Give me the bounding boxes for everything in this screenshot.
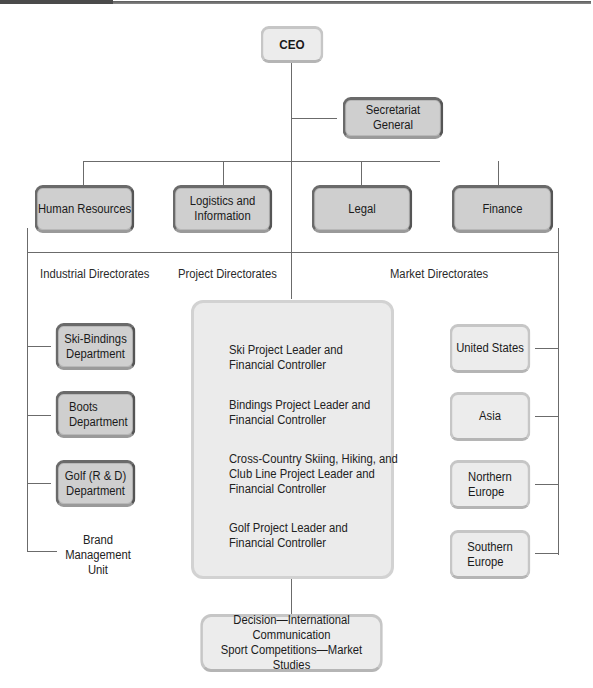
connector bbox=[291, 579, 292, 614]
connector bbox=[27, 228, 28, 552]
united-states-box: United States bbox=[450, 324, 531, 373]
secretariat-box: Secretariat General bbox=[343, 97, 444, 139]
market-directorates-label: Market Directorates bbox=[390, 267, 488, 281]
connector bbox=[27, 483, 51, 484]
connector bbox=[498, 161, 499, 186]
connector bbox=[83, 161, 440, 162]
ski-bindings-box: Ski-BindingsDepartment bbox=[55, 323, 135, 370]
asia-box: Asia bbox=[450, 392, 531, 441]
industrial-directorates-label: Industrial Directorates bbox=[40, 267, 149, 281]
secretariat-label: Secretariat General bbox=[345, 103, 440, 133]
connector bbox=[27, 346, 51, 347]
connector bbox=[27, 415, 51, 416]
connector bbox=[535, 416, 558, 417]
golf-rd-box: Golf (R & D)Department bbox=[55, 460, 135, 507]
top-rule bbox=[113, 1, 591, 4]
connector bbox=[27, 252, 559, 253]
ceo-box: CEO bbox=[261, 26, 324, 63]
bindings-project-item: Bindings Project Leader and Financial Co… bbox=[229, 398, 370, 428]
connector bbox=[535, 484, 558, 485]
project-directorates-panel: Ski Project Leader and Financial Control… bbox=[191, 300, 394, 579]
boots-box: BootsDepartment bbox=[55, 391, 135, 438]
top-rule-dark bbox=[0, 0, 113, 4]
logistics-box: Logistics and Information bbox=[173, 185, 273, 233]
northern-europe-box: NorthernEurope bbox=[450, 460, 531, 509]
brand-management-unit: Brand Management Unit bbox=[62, 533, 134, 578]
project-directorates-label: Project Directorates bbox=[178, 267, 277, 281]
connector bbox=[535, 348, 558, 349]
cross-country-project-item: Cross-Country Skiing, Hiking, and Club L… bbox=[229, 452, 398, 497]
connector bbox=[83, 161, 84, 186]
ski-project-item: Ski Project Leader and Financial Control… bbox=[229, 343, 343, 373]
connector bbox=[361, 161, 362, 186]
connector bbox=[27, 551, 57, 552]
connector bbox=[535, 553, 558, 554]
connector bbox=[291, 118, 337, 119]
finance-box: Finance bbox=[452, 185, 554, 233]
connector bbox=[291, 63, 292, 299]
golf-project-item: Golf Project Leader and Financial Contro… bbox=[229, 521, 348, 551]
southern-europe-box: SouthernEurope bbox=[450, 530, 531, 579]
connector bbox=[223, 161, 224, 186]
human-resources-box: Human Resources bbox=[35, 185, 135, 233]
decision-box: Decision—International Communication Spo… bbox=[200, 614, 383, 672]
ceo-label: CEO bbox=[279, 37, 304, 52]
connector bbox=[558, 228, 559, 555]
legal-box: Legal bbox=[312, 185, 413, 233]
